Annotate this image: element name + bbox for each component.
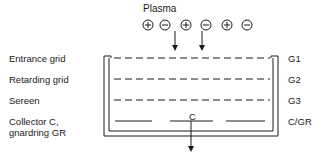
analyzer-diagram xyxy=(0,0,317,155)
positive-ion-icon xyxy=(222,20,232,30)
positive-ion-icon xyxy=(143,20,153,30)
electron-icon xyxy=(242,20,252,30)
inner-housing xyxy=(109,58,273,131)
electron-icon xyxy=(160,20,170,30)
positive-ion-icon xyxy=(181,20,191,30)
electron-icon xyxy=(201,20,211,30)
